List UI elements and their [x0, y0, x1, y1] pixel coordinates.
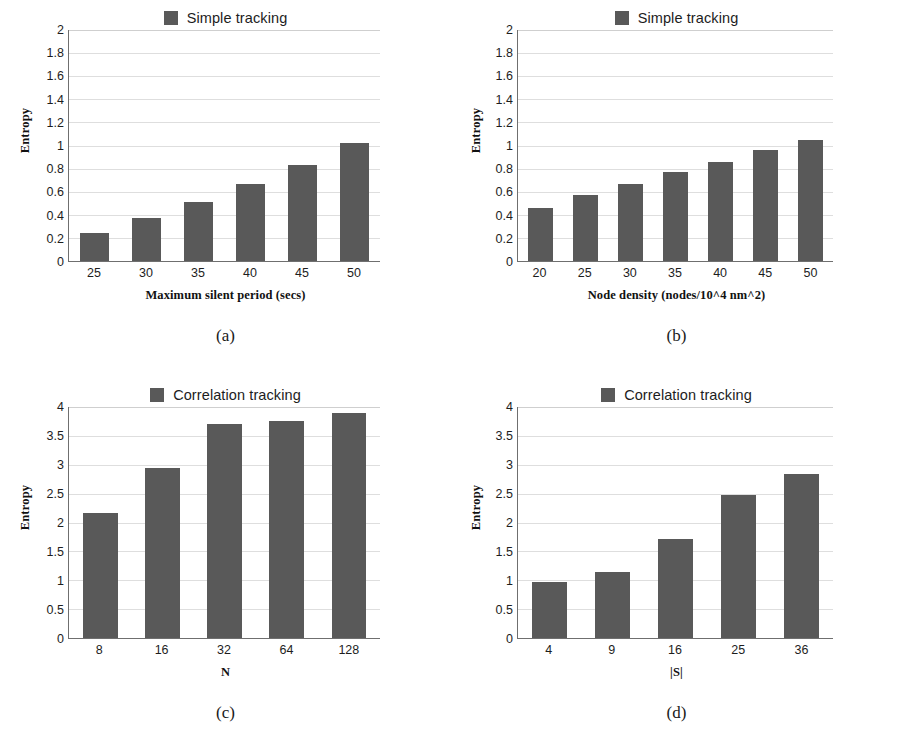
subfigure-caption: (b) — [451, 326, 902, 346]
bar — [288, 165, 317, 261]
subfigure-caption: (d) — [451, 703, 902, 723]
y-tick-label: 2 — [57, 23, 64, 37]
x-tick-label: 45 — [276, 266, 328, 284]
y-tick-label: 0.4 — [47, 209, 64, 223]
bar — [798, 140, 823, 261]
x-tick-label: 35 — [172, 266, 224, 284]
figure-root: Simple tracking Entropy 00.20.40.60.811.… — [0, 0, 902, 754]
y-tick-label: 1 — [57, 139, 64, 153]
y-tick-label: 3 — [57, 458, 64, 472]
bar-series — [518, 30, 833, 261]
x-tick-label: 16 — [643, 643, 706, 661]
y-tick-label: 2 — [506, 516, 513, 530]
y-tick-label: 0.5 — [496, 603, 513, 617]
y-tick-label: 1.8 — [496, 46, 513, 60]
x-axis-title: N — [0, 665, 451, 680]
y-tick-label: 2.5 — [496, 487, 513, 501]
x-tick-label: 25 — [707, 643, 770, 661]
subfigure-caption: (a) — [0, 326, 451, 346]
subfigure-caption: (c) — [0, 703, 451, 723]
x-tick-label: 16 — [130, 643, 192, 661]
bar — [663, 172, 688, 261]
x-axis-ticks: 20253035404550 — [517, 266, 833, 284]
chart-panel-a: Simple tracking Entropy 00.20.40.60.811.… — [0, 0, 451, 377]
bar-series — [69, 407, 380, 638]
x-tick-label: 40 — [224, 266, 276, 284]
bar-slot — [743, 30, 788, 261]
x-tick-label: 128 — [318, 643, 380, 661]
x-axis-title: |S| — [451, 665, 902, 680]
x-tick-label: 30 — [120, 266, 172, 284]
bar — [595, 572, 630, 638]
y-tick-label: 3 — [506, 458, 513, 472]
bar — [784, 474, 819, 638]
bar — [145, 468, 180, 638]
bar — [340, 143, 369, 261]
bar — [269, 421, 304, 638]
x-axis-ticks: 49162536 — [517, 643, 833, 661]
bar — [573, 195, 598, 261]
bar-slot — [581, 407, 644, 638]
bar — [753, 150, 778, 261]
bar-series — [518, 407, 833, 638]
bar-slot — [707, 407, 770, 638]
bar-slot — [276, 30, 328, 261]
y-tick-label: 0 — [506, 255, 513, 269]
y-tick-label: 1.8 — [47, 46, 64, 60]
bar-slot — [328, 30, 380, 261]
chart-panel-c: Correlation tracking Entropy 00.511.522.… — [0, 377, 451, 754]
bar-series — [69, 30, 380, 261]
y-tick-label: 1 — [57, 574, 64, 588]
x-axis-ticks: 253035404550 — [68, 266, 380, 284]
bar-slot — [653, 30, 698, 261]
y-tick-label: 1.4 — [47, 93, 64, 107]
y-tick-label: 1.5 — [47, 545, 64, 559]
plot-area — [517, 407, 833, 639]
y-axis-ticks: 00.511.522.533.54 — [30, 407, 64, 639]
y-tick-label: 1.6 — [47, 69, 64, 83]
y-axis-ticks: 00.20.40.60.811.21.41.61.82 — [30, 30, 64, 262]
x-tick-label: 45 — [743, 266, 788, 284]
chart-body-b: Entropy 00.20.40.60.811.21.41.61.82 2025… — [451, 0, 902, 310]
y-tick-label: 1.5 — [496, 545, 513, 559]
x-axis-title: Maximum silent period (secs) — [0, 288, 451, 303]
x-tick-label: 25 — [562, 266, 607, 284]
y-tick-label: 0.4 — [496, 209, 513, 223]
bar-slot — [788, 30, 833, 261]
x-tick-label: 35 — [652, 266, 697, 284]
y-tick-label: 0.2 — [47, 232, 64, 246]
y-tick-label: 1 — [506, 574, 513, 588]
y-tick-label: 0.6 — [47, 185, 64, 199]
bar — [236, 184, 265, 261]
x-tick-label: 32 — [193, 643, 255, 661]
bar-slot — [173, 30, 225, 261]
bar-slot — [69, 407, 131, 638]
bar-slot — [608, 30, 653, 261]
bar-slot — [121, 30, 173, 261]
bar-slot — [256, 407, 318, 638]
y-tick-label: 1.2 — [47, 116, 64, 130]
bar — [332, 413, 367, 638]
bar — [721, 495, 756, 638]
y-tick-label: 0 — [57, 632, 64, 646]
chart-panel-b: Simple tracking Entropy 00.20.40.60.811.… — [451, 0, 902, 377]
chart-body-a: Entropy 00.20.40.60.811.21.41.61.82 2530… — [0, 0, 451, 310]
y-tick-label: 2 — [57, 516, 64, 530]
x-tick-label: 50 — [788, 266, 833, 284]
x-tick-label: 64 — [255, 643, 317, 661]
y-axis-ticks: 00.511.522.533.54 — [479, 407, 513, 639]
bar-slot — [518, 30, 563, 261]
x-tick-label: 9 — [580, 643, 643, 661]
bar-slot — [131, 407, 193, 638]
x-axis-title: Node density (nodes/10^4 nm^2) — [451, 288, 902, 303]
y-tick-label: 0.2 — [496, 232, 513, 246]
x-tick-label: 30 — [607, 266, 652, 284]
plot-area — [517, 30, 833, 262]
bar — [132, 218, 161, 261]
x-axis-ticks: 8163264128 — [68, 643, 380, 661]
x-tick-label: 8 — [68, 643, 130, 661]
y-tick-label: 2 — [506, 23, 513, 37]
y-tick-label: 1.2 — [496, 116, 513, 130]
bar — [708, 162, 733, 261]
x-tick-label: 25 — [68, 266, 120, 284]
